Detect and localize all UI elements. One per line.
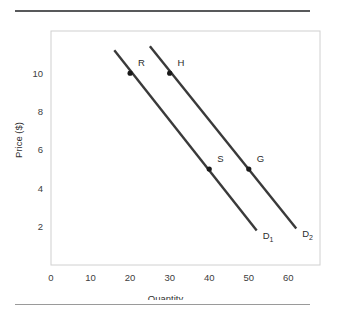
bottom-horizontal-rule: [15, 304, 310, 305]
plot-area-background: [51, 31, 320, 265]
point-label-R: R: [138, 57, 145, 68]
y-tick-label-6: 6: [38, 144, 43, 155]
data-point-S: [207, 166, 212, 171]
x-tick-label-60: 60: [283, 272, 294, 283]
x-tick-label-30: 30: [164, 272, 175, 283]
x-tick-label-50: 50: [244, 272, 255, 283]
x-tick-label-40: 40: [204, 272, 215, 283]
demand-curve-chart: 2468100102030405060QuantityPrice ($)D1RS…: [0, 20, 337, 300]
y-tick-label-4: 4: [38, 183, 43, 194]
point-label-S: S: [217, 153, 223, 164]
y-tick-label-10: 10: [32, 68, 43, 79]
y-axis-title: Price ($): [13, 122, 24, 158]
y-tick-label-8: 8: [38, 106, 43, 117]
x-axis-title: Quantity: [148, 293, 184, 300]
x-tick-label-0: 0: [48, 272, 53, 283]
data-point-H: [167, 71, 172, 76]
point-label-G: G: [257, 153, 264, 164]
figure-container: 2468100102030405060QuantityPrice ($)D1RS…: [0, 0, 337, 316]
plot-wrapper: 2468100102030405060QuantityPrice ($)D1RS…: [0, 20, 337, 300]
x-tick-label-20: 20: [125, 272, 136, 283]
data-point-G: [246, 166, 251, 171]
data-point-R: [128, 71, 133, 76]
y-tick-label-2: 2: [38, 221, 43, 232]
x-tick-label-10: 10: [85, 272, 96, 283]
point-label-H: H: [178, 57, 185, 68]
top-horizontal-rule: [15, 10, 310, 12]
